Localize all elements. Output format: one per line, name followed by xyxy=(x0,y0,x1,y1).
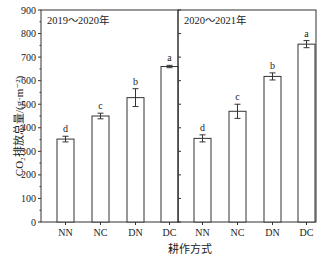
significance-letter: c xyxy=(235,91,240,102)
panel-title: 2019～2020年 xyxy=(47,14,109,26)
chart-canvas: 01002003004005006007008009002019～2020年dN… xyxy=(0,0,325,261)
bar-dn xyxy=(127,98,144,222)
x-tick-label: DN xyxy=(128,227,142,238)
significance-letter: d xyxy=(200,122,205,133)
bar-nc xyxy=(92,116,109,222)
x-tick-label: NC xyxy=(94,227,108,238)
bar-nc xyxy=(229,111,246,222)
significance-letter: d xyxy=(63,123,68,134)
x-tick-label: DN xyxy=(265,227,279,238)
bar-dc xyxy=(298,44,315,222)
bar-nn xyxy=(194,138,211,222)
y-tick-label: 0 xyxy=(31,217,36,228)
bar-dn xyxy=(264,76,281,222)
y-axis-label: CO₂排放总量/(g·m⁻²) xyxy=(10,46,26,206)
x-axis-label: 耕作方式 xyxy=(150,240,230,256)
bar-nn xyxy=(57,139,74,222)
x-tick-label: NC xyxy=(231,227,245,238)
significance-letter: c xyxy=(98,100,103,111)
co2-emission-chart: 01002003004005006007008009002019～2020年dN… xyxy=(0,0,325,261)
x-tick-label: DC xyxy=(300,227,314,238)
y-tick-label: 800 xyxy=(21,28,36,39)
significance-letter: a xyxy=(167,52,172,63)
significance-letter: b xyxy=(133,76,138,87)
y-tick-label: 900 xyxy=(21,5,36,16)
bar-dc xyxy=(161,67,178,222)
x-tick-label: NN xyxy=(195,227,209,238)
x-tick-label: NN xyxy=(58,227,72,238)
significance-letter: b xyxy=(270,60,275,71)
significance-letter: a xyxy=(304,28,309,39)
x-tick-label: DC xyxy=(163,227,177,238)
panel-title: 2020～2021年 xyxy=(184,14,246,26)
